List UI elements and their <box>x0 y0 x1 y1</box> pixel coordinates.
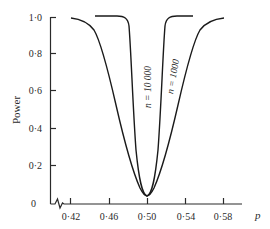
y-tick-0-8: 0·8 <box>29 48 42 59</box>
y-tick-0-4: 0·4 <box>29 123 42 134</box>
x-tick-0-42: 0·42 <box>62 211 80 222</box>
y-axis-label: Power <box>10 96 22 124</box>
y-tick-1-0: 1·0 <box>29 12 42 23</box>
x-tick-labels: 0·42 0·46 0·50 0·54 0·58 <box>62 211 232 222</box>
x-axis-label: p <box>254 209 261 221</box>
x-tick-0-58: 0·58 <box>214 211 232 222</box>
x-tick-0-46: 0·46 <box>100 211 118 222</box>
x-tick-0-50: 0·50 <box>138 211 156 222</box>
y-tick-0-6: 0·6 <box>29 85 42 96</box>
axis-break-icon <box>51 199 243 208</box>
x-axis <box>51 198 243 208</box>
power-curve-chart: 1·0 0·8 0·6 0·4 0·2 0 Power 0·42 0·46 0·… <box>0 0 270 229</box>
y-tick-labels: 1·0 0·8 0·6 0·4 0·2 0 <box>29 12 42 209</box>
series-label-n-1000: n = 1000 <box>165 58 181 94</box>
y-tick-0: 0 <box>31 198 36 209</box>
x-tick-0-54: 0·54 <box>177 211 195 222</box>
y-axis <box>51 17 57 204</box>
series-label-n-10000: n = 10 000 <box>143 66 153 108</box>
y-tick-0-2: 0·2 <box>29 160 42 171</box>
